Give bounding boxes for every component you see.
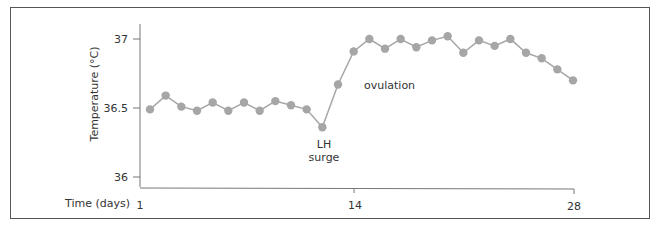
lh-surge-label-line1: LH <box>317 138 331 151</box>
data-point <box>255 107 263 115</box>
data-point <box>569 76 577 84</box>
data-point <box>302 105 310 113</box>
y-tick-label-36-5: 36.5 <box>104 102 129 115</box>
data-point <box>287 101 295 109</box>
data-point <box>396 35 404 43</box>
data-point <box>240 98 248 106</box>
temperature-chart: 37 36.5 36 1 14 28 Time (days) Temperatu… <box>0 0 663 236</box>
data-point <box>224 107 232 115</box>
data-point <box>506 35 514 43</box>
data-point <box>365 35 373 43</box>
data-point <box>318 123 326 131</box>
x-tick-label-28: 28 <box>567 200 581 213</box>
data-point <box>177 102 185 110</box>
data-point <box>334 80 342 88</box>
lh-surge-label-line2: surge <box>309 151 340 164</box>
ovulation-label: ovulation <box>364 79 415 92</box>
data-point <box>522 49 530 57</box>
y-axis-title: Temperature (°C) <box>88 47 101 143</box>
y-tick-label-36: 36 <box>114 171 128 184</box>
y-tick-label-37: 37 <box>114 33 128 46</box>
data-point <box>475 36 483 44</box>
data-point <box>490 42 498 50</box>
data-point <box>459 49 467 57</box>
data-point <box>146 105 154 113</box>
data-point <box>553 65 561 73</box>
x-tick-label-1: 1 <box>137 199 144 212</box>
data-point <box>443 32 451 40</box>
data-point <box>349 47 357 55</box>
x-axis <box>140 188 574 189</box>
x-tick-label-14: 14 <box>348 199 362 212</box>
temperature-series <box>146 32 577 131</box>
data-point <box>193 107 201 115</box>
data-point <box>412 43 420 51</box>
data-point <box>161 91 169 99</box>
x-axis-title: Time (days) <box>64 197 130 210</box>
data-point <box>271 97 279 105</box>
data-point <box>208 98 216 106</box>
data-point <box>537 54 545 62</box>
series-line <box>150 36 573 127</box>
data-point <box>428 36 436 44</box>
data-point <box>381 44 389 52</box>
